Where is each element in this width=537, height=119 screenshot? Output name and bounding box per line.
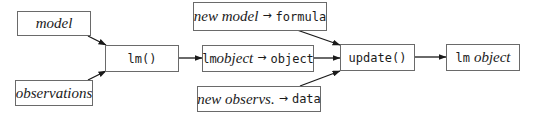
node-lm-object-input-italic: object: [217, 50, 254, 67]
node-lm-call-label: lm(): [128, 52, 157, 66]
node-observations-label: observations: [16, 85, 93, 102]
node-model-label: model: [36, 15, 73, 32]
node-lm-call: lm(): [105, 45, 179, 72]
node-new-observs: new observs. → data: [197, 86, 321, 112]
right-arrow-icon: →: [257, 51, 266, 64]
edge-observations-to-lm: [88, 71, 106, 80]
node-new-model-italic: new model: [194, 8, 259, 25]
node-new-observs-italic: new observs.: [197, 91, 275, 108]
edge-newmodel-to-update: [297, 30, 340, 45]
node-lm-object-output-code: lm: [455, 51, 469, 65]
right-arrow-icon: →: [262, 9, 271, 22]
node-new-model-target: formula: [276, 10, 327, 24]
node-lm-object-input-code: lm: [202, 52, 216, 66]
right-arrow-icon: →: [279, 92, 288, 105]
node-model: model: [17, 11, 91, 36]
diagram-canvas: model observations lm() new model → form…: [0, 0, 537, 119]
node-update-call-label: update(): [349, 51, 407, 65]
node-lm-object-input: lm object → object: [202, 45, 314, 72]
edge-model-to-lm: [88, 36, 106, 45]
node-lm-object-input-target: object: [270, 52, 313, 66]
node-update-call: update(): [340, 44, 415, 71]
node-observations: observations: [15, 80, 93, 106]
node-lm-object-output: lm object: [446, 44, 520, 71]
node-lm-object-output-italic: object: [474, 49, 511, 66]
node-new-model: new model → formula: [193, 2, 327, 31]
edge-newobservs-to-update: [300, 71, 340, 86]
node-new-observs-target: data: [292, 92, 321, 106]
